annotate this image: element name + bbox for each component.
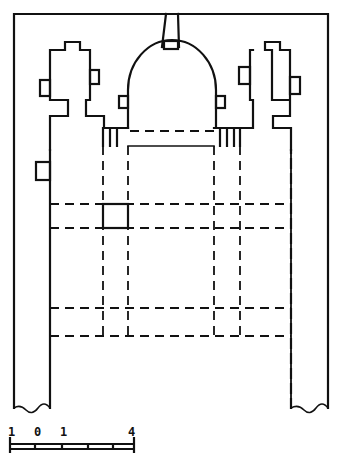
scale-label-1: 1 <box>8 425 15 439</box>
scale-label-4: 4 <box>128 425 135 439</box>
floor-plan <box>0 0 339 456</box>
apse <box>119 14 225 131</box>
foundation-grid <box>50 146 328 408</box>
scale-bar <box>10 438 134 452</box>
left-tower <box>36 42 118 180</box>
break-line-left <box>14 404 50 413</box>
steps <box>103 128 240 146</box>
break-line-right <box>291 404 328 413</box>
right-tower <box>221 42 300 150</box>
scale-label-1b: 1 <box>60 425 67 439</box>
pier-block <box>103 204 128 228</box>
outer-wall <box>14 14 328 408</box>
scale-label-0: 0 <box>34 425 41 439</box>
